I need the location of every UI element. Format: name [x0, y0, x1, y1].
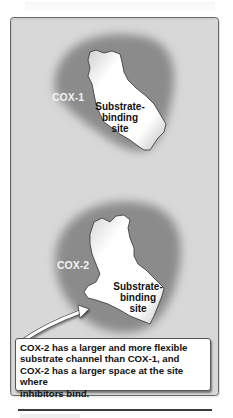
cox2-label: COX-2	[57, 260, 89, 271]
caption-divider	[18, 409, 212, 411]
faded-caption	[20, 414, 80, 418]
cox1-label: COX-1	[52, 92, 84, 103]
cox1-site-label: Substrate- binding site	[92, 101, 148, 134]
explanation-callout: COX-2 has a larger and more flexible sub…	[15, 338, 211, 391]
cox2-site-label: Substrate- binding site	[110, 281, 166, 314]
